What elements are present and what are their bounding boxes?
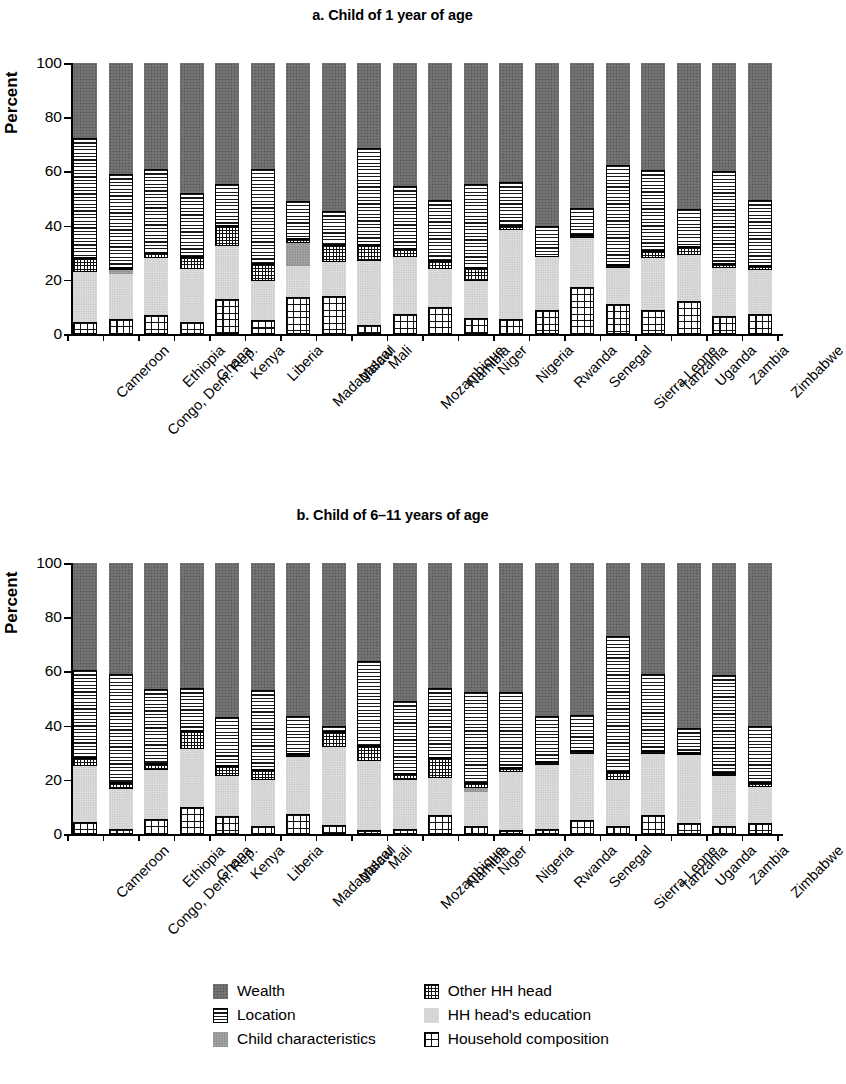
bar-namibia[interactable] xyxy=(428,63,452,334)
bar-segment-other-hh-head xyxy=(109,783,133,790)
y-tick-label: 60 xyxy=(20,665,62,677)
legend-item-location[interactable]: Location xyxy=(213,1006,376,1024)
bar-namibia[interactable] xyxy=(428,563,452,834)
bar-rwanda[interactable] xyxy=(535,563,559,834)
bar-tanzania[interactable] xyxy=(641,563,665,834)
bar-segment-household-composition xyxy=(215,816,239,834)
bar-segment-wealth xyxy=(464,63,488,184)
bar-sierra-leone[interactable] xyxy=(606,63,630,334)
x-tick-mark xyxy=(529,834,531,841)
bar-nigeria[interactable] xyxy=(499,63,523,334)
x-tick-mark xyxy=(458,334,460,341)
bar-segment-location xyxy=(393,701,417,774)
bar-senegal[interactable] xyxy=(570,63,594,334)
bar-segment-household-composition xyxy=(748,314,772,334)
bar-segment-location xyxy=(677,209,701,247)
bar-segment-hh-head-education xyxy=(428,778,452,815)
legend-item-other-hh-head[interactable]: Other HH head xyxy=(424,982,609,1000)
bar-mozambique[interactable] xyxy=(393,63,417,334)
bar-segment-location xyxy=(499,692,523,768)
bar-segment-other-hh-head xyxy=(73,258,97,272)
bar-sierra-leone[interactable] xyxy=(606,563,630,834)
bar-segment-household-composition xyxy=(570,820,594,834)
bar-segment-hh-head-education xyxy=(180,749,204,807)
bar-segment-wealth xyxy=(109,63,133,174)
bar-segment-household-composition xyxy=(464,826,488,834)
bar-cameroon[interactable] xyxy=(73,63,97,334)
x-tick-mark xyxy=(351,834,353,841)
x-tick-mark xyxy=(316,834,318,841)
bar-zambia[interactable] xyxy=(712,563,736,834)
bar-zambia[interactable] xyxy=(712,63,736,334)
bar-segment-hh-head-education xyxy=(464,792,488,826)
bar-malawi[interactable] xyxy=(322,63,346,334)
bar-segment-wealth xyxy=(144,63,168,169)
panel-a-y-ticks: 020406080100 xyxy=(14,26,62,326)
bar-segment-wealth xyxy=(712,63,736,171)
bar-ethiopia[interactable] xyxy=(144,63,168,334)
bar-tanzania[interactable] xyxy=(641,63,665,334)
bar-segment-location xyxy=(641,674,665,751)
bar-segment-hh-head-education xyxy=(73,272,97,322)
bar-uganda[interactable] xyxy=(677,63,701,334)
bar-ethiopia[interactable] xyxy=(144,563,168,834)
bar-segment-household-composition xyxy=(109,829,133,834)
bar-segment-location xyxy=(748,200,772,266)
bar-segment-wealth xyxy=(322,63,346,211)
bar-segment-hh-head-education xyxy=(641,754,665,815)
bar-segment-other-hh-head xyxy=(144,253,168,258)
y-tick-label: 20 xyxy=(20,774,62,786)
bar-mali[interactable] xyxy=(357,63,381,334)
bar-segment-other-hh-head xyxy=(286,754,310,757)
x-tick-mark xyxy=(706,334,708,341)
x-axis-label: Liberia xyxy=(283,342,325,384)
bar-segment-wealth xyxy=(180,563,204,688)
legend-item-household-composition[interactable]: Household composition xyxy=(424,1030,609,1048)
y-tick-mark xyxy=(64,117,72,119)
bar-malawi[interactable] xyxy=(322,563,346,834)
bar-mozambique[interactable] xyxy=(393,563,417,834)
bar-segment-hh-head-education xyxy=(464,281,488,318)
bar-mali[interactable] xyxy=(357,563,381,834)
bar-ghana[interactable] xyxy=(180,63,204,334)
x-tick-mark xyxy=(67,834,69,841)
legend-item-hh-head-education[interactable]: HH head's education xyxy=(424,1006,609,1024)
x-tick-mark xyxy=(458,834,460,841)
bar-segment-household-composition xyxy=(357,830,381,834)
legend-item-child-characteristics[interactable]: Child characteristics xyxy=(213,1030,376,1048)
bar-liberia[interactable] xyxy=(251,563,275,834)
bar-segment-wealth xyxy=(215,63,239,184)
bar-uganda[interactable] xyxy=(677,563,701,834)
bar-segment-wealth xyxy=(251,63,275,169)
x-tick-mark xyxy=(138,834,140,841)
bar-rwanda[interactable] xyxy=(535,63,559,334)
bar-senegal[interactable] xyxy=(570,563,594,834)
x-tick-mark xyxy=(742,334,744,341)
bar-zimbabwe[interactable] xyxy=(748,63,772,334)
bar-cameroon[interactable] xyxy=(73,563,97,834)
bar-liberia[interactable] xyxy=(251,63,275,334)
bar-niger[interactable] xyxy=(464,563,488,834)
legend-label: Wealth xyxy=(237,982,285,1000)
bar-segment-wealth xyxy=(535,63,559,226)
x-tick-mark xyxy=(351,334,353,341)
bar-madagascar[interactable] xyxy=(286,63,310,334)
legend-label: Child characteristics xyxy=(237,1030,376,1048)
bar-niger[interactable] xyxy=(464,63,488,334)
bar-kenya[interactable] xyxy=(215,563,239,834)
bar-ghana[interactable] xyxy=(180,563,204,834)
legend-item-wealth[interactable]: Wealth xyxy=(213,982,376,1000)
bar-zimbabwe[interactable] xyxy=(748,563,772,834)
bar-congo-dem-rep[interactable] xyxy=(109,563,133,834)
bar-segment-wealth xyxy=(357,563,381,661)
bar-kenya[interactable] xyxy=(215,63,239,334)
bar-segment-household-composition xyxy=(286,814,310,834)
bar-madagascar[interactable] xyxy=(286,563,310,834)
bar-segment-wealth xyxy=(322,563,346,726)
bar-segment-wealth xyxy=(499,63,523,182)
bar-segment-location xyxy=(215,184,239,226)
bar-segment-wealth xyxy=(286,63,310,201)
bar-nigeria[interactable] xyxy=(499,563,523,834)
bar-congo-dem-rep[interactable] xyxy=(109,63,133,334)
bar-segment-hh-head-education xyxy=(286,757,310,814)
